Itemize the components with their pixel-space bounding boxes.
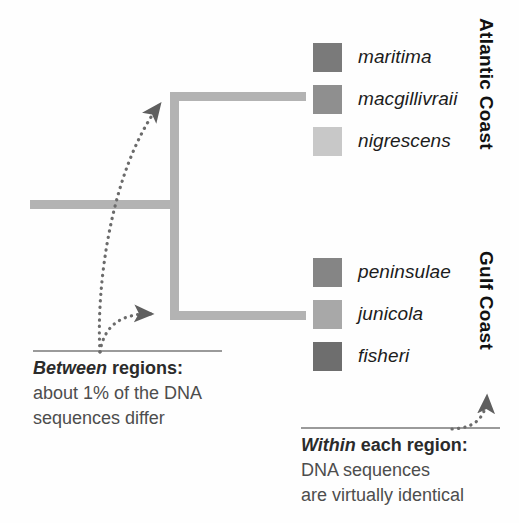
legend-swatch-junicola [313,300,342,329]
region-label-gulf-coast: Gulf Coast [475,251,497,350]
legend-item: fisheri [313,335,451,377]
annotation-heading-emphasis: Within [301,435,356,455]
pointer-between-to-atlantic [99,104,160,352]
annotation-rule [301,427,500,429]
annotation-between-regions: Between regions: about 1% of the DNA seq… [33,350,222,431]
annotation-body: Within each region: DNA sequences are vi… [301,433,500,508]
tree-branch-atlantic [170,92,306,101]
annotation-heading-emphasis: Between [33,358,107,378]
annotation-line-3: are virtually identical [301,483,500,508]
legend-label-junicola: junicola [358,303,423,325]
annotation-heading: Between regions: [33,356,222,381]
legend-swatch-maritima [313,43,342,72]
legend-item: junicola [313,293,451,335]
tree-branch-gulf [170,311,306,320]
phylogeny-figure: maritima macgillivraii nigrescens penins… [0,0,519,523]
pointer-between-to-gulf [100,314,152,352]
annotation-line-2: DNA sequences [301,458,500,483]
legend-label-nigrescens: nigrescens [358,130,451,152]
legend-item: maritima [313,36,457,78]
legend-label-peninsulae: peninsulae [358,261,451,283]
legend-item: macgillivraii [313,78,457,120]
legend-item: peninsulae [313,251,451,293]
legend-swatch-peninsulae [313,258,342,287]
legend-gulf-coast: peninsulae junicola fisheri [313,251,451,377]
legend-swatch-fisheri [313,342,342,371]
legend-label-macgillivraii: macgillivraii [358,88,457,110]
pointer-within-to-gulf [452,396,487,429]
legend-item: nigrescens [313,120,457,162]
annotation-rule [33,350,222,352]
annotation-within-region: Within each region: DNA sequences are vi… [301,427,500,508]
tree-root-branch [30,200,178,209]
legend-label-maritima: maritima [358,46,432,68]
annotation-line-2: about 1% of the DNA [33,381,222,406]
legend-label-fisheri: fisheri [358,345,409,367]
annotation-heading-rest: each region: [356,435,468,455]
annotation-body: Between regions: about 1% of the DNA seq… [33,356,222,431]
legend-swatch-nigrescens [313,127,342,156]
annotation-heading-rest: regions: [107,358,183,378]
tree-node-spine [170,92,179,320]
annotation-line-3: sequences differ [33,406,222,431]
legend-swatch-macgillivraii [313,85,342,114]
annotation-heading: Within each region: [301,433,500,458]
legend-atlantic-coast: maritima macgillivraii nigrescens [313,36,457,162]
region-label-atlantic-coast: Atlantic Coast [475,18,497,150]
